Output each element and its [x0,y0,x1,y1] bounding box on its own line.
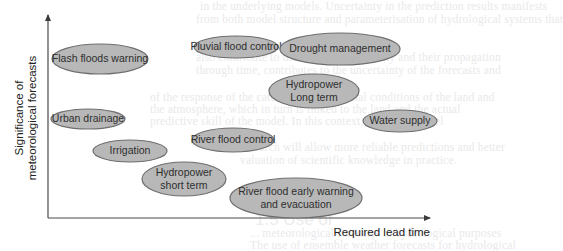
x-axis-label: Required lead time [333,226,430,238]
ellipse-label: Water supply [370,114,432,126]
application-ellipses: Flash floods warningPluvial flood contro… [51,33,437,218]
y-axis-label-line2: meteorological forecasts [26,55,38,180]
ellipse-hydropower-short-term: Hydropowershort term [142,162,226,196]
ellipse-drought-management: Drought management [280,33,400,65]
ellipse-label: Flash floods warning [52,52,148,64]
ellipse-label: and evacuation [260,198,331,210]
ellipse-flash-floods-warning: Flash floods warning [52,44,148,74]
ellipse-label: Long term [290,91,338,103]
ellipse-label: Drought management [289,42,391,54]
ellipse-label: Hydropower [156,166,213,178]
ellipse-label: short term [160,179,208,191]
ellipse-label: Pluvial flood control [190,40,281,52]
ellipse-irrigation: Irrigation [93,140,167,162]
ellipse-hydropower-long-term: HydropowerLong term [269,74,359,108]
ellipse-river-flood-control: River flood control [191,128,276,152]
ellipse-river-flood-early-warning: River flood early warningand evacuation [230,178,362,218]
ellipse-pluvial-flood-control: Pluvial flood control [190,36,281,58]
ellipse-label: Irrigation [110,144,151,156]
ellipse-water-supply: Water supply [363,110,437,132]
ellipse-label: Hydropower [286,78,343,90]
ellipse-label: River flood control [191,133,276,145]
ellipse-label: Urban drainage [52,112,125,124]
ellipse-urban-drainage: Urban drainage [51,109,125,129]
y-axis-label-line1: Significance of [13,80,25,156]
y-axis-label: Significance of meteorological forecasts [13,55,38,180]
ellipse-label: River flood early warning [238,185,354,197]
